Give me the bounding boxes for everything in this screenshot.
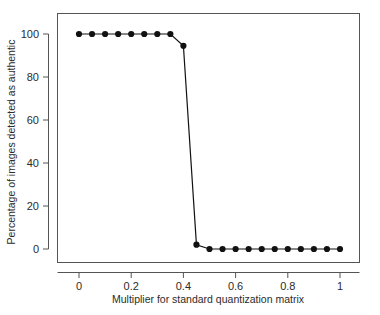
data-point: [180, 43, 186, 49]
data-point: [206, 246, 212, 252]
data-point: [298, 246, 304, 252]
data-point: [246, 246, 252, 252]
data-point: [337, 246, 343, 252]
y-tick-label: 60: [27, 114, 39, 126]
data-point: [324, 246, 330, 252]
data-point: [233, 246, 239, 252]
data-point: [141, 31, 147, 37]
y-tick-label: 100: [21, 28, 39, 40]
y-tick-label: 80: [27, 71, 39, 83]
data-point: [102, 31, 108, 37]
data-point: [128, 31, 134, 37]
y-tick-label: 40: [27, 157, 39, 169]
x-tick-label: 1: [337, 280, 343, 292]
y-tick-label: 0: [33, 243, 39, 255]
x-tick-label: 0.8: [280, 280, 295, 292]
data-point: [259, 246, 265, 252]
y-tick-label: 20: [27, 200, 39, 212]
data-point: [89, 31, 95, 37]
x-tick-label: 0.2: [124, 280, 139, 292]
data-point: [285, 246, 291, 252]
x-axis-title: Multiplier for standard quantization mat…: [112, 293, 305, 305]
data-point: [219, 246, 225, 252]
data-point: [76, 31, 82, 37]
data-point: [272, 246, 278, 252]
data-point: [154, 31, 160, 37]
x-tick-label: 0.6: [228, 280, 243, 292]
x-tick-label: 0.4: [176, 280, 191, 292]
y-axis-title: Percentage of images detected as authent…: [5, 40, 17, 245]
data-point: [311, 246, 317, 252]
data-point: [193, 242, 199, 248]
chart-canvas: 00.20.40.60.81 020406080100 Multiplier f…: [0, 0, 380, 315]
data-point: [167, 31, 173, 37]
data-point: [115, 31, 121, 37]
x-tick-label: 0: [76, 280, 82, 292]
figure-container: 00.20.40.60.81 020406080100 Multiplier f…: [0, 0, 380, 315]
